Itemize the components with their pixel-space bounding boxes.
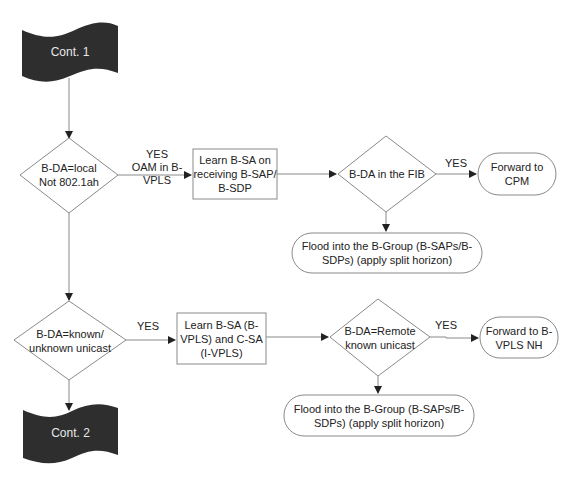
edge-d4-t3	[430, 337, 478, 338]
terminal-t4-line1: Flood into the B-Group (B-SAPs/B-	[294, 402, 465, 416]
decision-d2-label: B-DA in the FIB	[340, 166, 434, 182]
terminal-t2-line1: Flood into the B-Group (B-SAPs/B-	[302, 239, 473, 253]
edge-d3-p2-label: YES	[128, 320, 168, 333]
process-p1-label: Learn B-SA on receiving B-SAP/ B-SDP	[193, 151, 277, 197]
edge-d1-p1-yes: YES	[118, 148, 196, 161]
process-p2-line2: VPLS) and C-SA	[180, 332, 263, 346]
decision-d3-line1: B-DA=known/	[36, 327, 104, 341]
decision-d1-label: B-DA=local Not 802.1ah	[24, 160, 114, 190]
terminal-t1-line2: CPM	[505, 174, 529, 188]
terminal-t1-line1: Forward to	[491, 160, 544, 174]
decision-d1-line2: Not 802.1ah	[39, 175, 99, 189]
terminal-t4-line2: SDPs) (apply split horizon)	[314, 416, 444, 430]
edge-d1-p1-label: YES OAM in B-VPLS	[118, 148, 196, 187]
decision-d4-line1: B-DA=Remote	[344, 324, 415, 338]
decision-d1-line1: B-DA=local	[41, 161, 96, 175]
process-p1-line2: receiving B-SAP/	[193, 167, 276, 181]
edge-d2-t1-label: YES	[438, 157, 474, 170]
terminal-t2-label: Flood into the B-Group (B-SAPs/B- SDPs) …	[292, 233, 482, 273]
edge-d1-p1-condition: OAM in B-VPLS	[118, 161, 196, 187]
cont1-label: Cont. 1	[22, 44, 118, 60]
process-p1-line3: B-SDP	[218, 181, 252, 195]
terminal-t4-label: Flood into the B-Group (B-SAPs/B- SDPs) …	[284, 395, 474, 436]
decision-d3-label: B-DA=known/ unknown unicast	[18, 326, 122, 356]
terminal-t3-label: Forward to B- VPLS NH	[480, 317, 558, 358]
terminal-t1-label: Forward to CPM	[478, 153, 556, 195]
edge-d4-t3-label: YES	[426, 319, 466, 332]
process-p2-label: Learn B-SA (B- VPLS) and C-SA (I-VPLS)	[177, 315, 266, 362]
terminal-t3-line2: VPLS NH	[495, 338, 542, 352]
process-p1-line1: Learn B-SA on	[199, 153, 271, 167]
terminal-t2-line2: SDPs) (apply split horizon)	[322, 253, 452, 267]
decision-d4-label: B-DA=Remote known unicast	[330, 323, 430, 353]
process-p2-line3: (I-VPLS)	[200, 346, 242, 360]
decision-d3-line2: unknown unicast	[29, 341, 111, 355]
decision-d4-line2: known unicast	[345, 338, 415, 352]
process-p2-line1: Learn B-SA (B-	[185, 318, 259, 332]
terminal-t3-line1: Forward to B-	[486, 324, 553, 338]
cont2-label: Cont. 2	[23, 425, 118, 441]
